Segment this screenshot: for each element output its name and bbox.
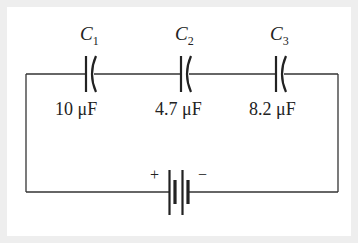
capacitor-c3-value: 8.2 μF (249, 99, 296, 119)
battery: + − (150, 166, 207, 215)
capacitor-c3-label: C3 (270, 23, 289, 48)
battery-minus-label: − (198, 166, 207, 183)
capacitor-c2-label: C2 (175, 23, 194, 48)
circuit-diagram: C1 10 μF C2 4.7 μF C3 8.2 μF + − (0, 0, 358, 243)
capacitor-c3: C3 8.2 μF (249, 23, 296, 119)
capacitor-c2-value: 4.7 μF (155, 99, 202, 119)
battery-plus-label: + (150, 166, 159, 183)
capacitor-c1-label: C1 (80, 23, 99, 48)
capacitor-c2: C2 4.7 μF (155, 23, 202, 119)
capacitor-c1: C1 10 μF (55, 23, 99, 119)
capacitor-c1-value: 10 μF (55, 99, 97, 119)
